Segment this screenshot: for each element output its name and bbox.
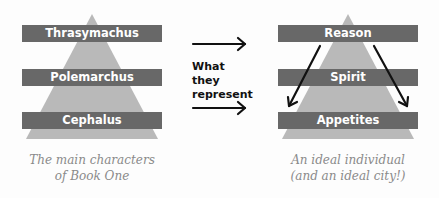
bottom-right-arrow-icon bbox=[193, 102, 245, 114]
reason-to-appetites-left-arrow-icon bbox=[288, 46, 320, 106]
arrows-layer bbox=[0, 0, 439, 198]
top-right-arrow-icon bbox=[193, 38, 245, 50]
reason-to-appetites-right-arrow-icon bbox=[374, 46, 408, 106]
